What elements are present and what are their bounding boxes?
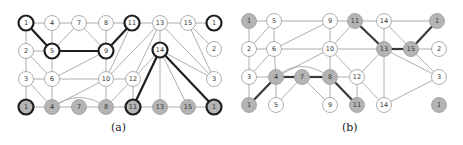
graph-edge — [160, 50, 188, 107]
node-label: 14 — [380, 101, 388, 109]
graph-node: 11 — [350, 98, 365, 113]
node-label: 5 — [274, 101, 278, 109]
node-label: 14 — [156, 46, 164, 54]
node-label: 13 — [156, 103, 164, 111]
graph-node: 11 — [348, 14, 363, 29]
node-label: 5 — [50, 47, 54, 55]
graph-node: 1 — [19, 100, 34, 115]
graph-edge — [274, 21, 330, 49]
graph-edge — [52, 51, 106, 79]
node-label: 11 — [129, 103, 137, 111]
graph-node: 5 — [267, 14, 282, 29]
graph-node: 5 — [45, 44, 60, 59]
node-label: 8 — [104, 103, 108, 111]
graph-figure: 1478111315125914236101231478111315115911… — [0, 0, 463, 145]
graph-node: 12 — [126, 72, 141, 87]
graph-canvas: 1478111315125914236101231478111315115911… — [0, 0, 463, 145]
node-label: 2 — [24, 47, 28, 55]
graph-node: 7 — [72, 100, 87, 115]
graph-node: 15 — [181, 16, 196, 31]
graph-node: 5 — [269, 98, 284, 113]
graph-node: 15 — [404, 42, 419, 57]
graph-node: 3 — [432, 70, 447, 85]
graph-node: 1 — [207, 16, 222, 31]
graph-node: 1 — [242, 14, 257, 29]
node-label: 1 — [24, 19, 28, 27]
node-label: 2 — [212, 45, 216, 53]
graph-node: 15 — [181, 100, 196, 115]
graph-node: 12 — [350, 70, 365, 85]
graph-node: 10 — [99, 72, 114, 87]
graph-node: 1 — [242, 98, 257, 113]
graph-node: 1 — [207, 100, 222, 115]
node-label: 15 — [184, 103, 192, 111]
bold-edge — [160, 50, 214, 107]
node-label: 11 — [128, 19, 136, 27]
graph-node: 13 — [377, 42, 392, 57]
node-label: 4 — [274, 73, 278, 81]
node-label: 12 — [129, 75, 137, 83]
graph-node: 8 — [99, 100, 114, 115]
graph-node: 13 — [153, 16, 168, 31]
node-label: 1 — [212, 103, 216, 111]
node-label: 13 — [156, 19, 164, 27]
node-label: 10 — [102, 75, 110, 83]
graph-node: 13 — [153, 100, 168, 115]
node-label: 3 — [247, 73, 251, 81]
graph-node: 4 — [45, 16, 60, 31]
graph-node: 9 — [323, 98, 338, 113]
graph-node: 14 — [153, 43, 168, 58]
node-label: 6 — [50, 75, 54, 83]
graph-node: 4 — [269, 70, 284, 85]
node-label: 9 — [328, 17, 332, 25]
caption-b: (b) — [342, 121, 358, 134]
node-label: 3 — [212, 75, 216, 83]
graph-node: 14 — [377, 98, 392, 113]
graph-node: 2 — [242, 42, 257, 57]
node-label: 15 — [407, 45, 415, 53]
node-label: 8 — [328, 73, 332, 81]
node-label: 7 — [77, 19, 81, 27]
node-label: 12 — [353, 73, 361, 81]
graph-node: 7 — [295, 70, 310, 85]
node-label: 1 — [212, 19, 216, 27]
node-label: 8 — [104, 19, 108, 27]
graph-node: 3 — [207, 72, 222, 87]
node-label: 5 — [272, 17, 276, 25]
graph-node: 2 — [432, 42, 447, 57]
node-label: 10 — [326, 45, 334, 53]
node-label: 1 — [247, 17, 251, 25]
graph-node: 14 — [377, 14, 392, 29]
node-label: 11 — [353, 101, 361, 109]
graph-node: 1 — [430, 14, 445, 29]
node-label: 11 — [351, 17, 359, 25]
graph-node: 3 — [242, 70, 257, 85]
graph-node: 2 — [207, 42, 222, 57]
graph-node: 6 — [45, 72, 60, 87]
graph-node: 1 — [19, 16, 34, 31]
node-label: 3 — [24, 75, 28, 83]
node-label: 1 — [247, 101, 251, 109]
graph-node: 4 — [45, 100, 60, 115]
node-label: 2 — [247, 45, 251, 53]
graph-node: 6 — [267, 42, 282, 57]
node-label: 4 — [50, 19, 54, 27]
caption-a: (a) — [111, 121, 126, 134]
node-label: 7 — [300, 73, 304, 81]
node-label: 9 — [328, 101, 332, 109]
graph-node: 8 — [323, 70, 338, 85]
graph-edge — [384, 77, 439, 105]
graph-edge — [160, 50, 214, 79]
graph-node: 3 — [19, 72, 34, 87]
node-label: 9 — [104, 47, 108, 55]
graph-node: 11 — [125, 16, 140, 31]
node-label: 4 — [50, 103, 54, 111]
graph-panel-b: 15911141261013152347812315911141 — [242, 14, 447, 113]
graph-node: 8 — [99, 16, 114, 31]
graph-node: 7 — [72, 16, 87, 31]
graph-panel-a: 14781113151259142361012314781113151 — [19, 16, 222, 115]
node-label: 15 — [184, 19, 192, 27]
node-label: 1 — [24, 103, 28, 111]
node-label: 13 — [380, 45, 388, 53]
node-label: 14 — [380, 17, 388, 25]
